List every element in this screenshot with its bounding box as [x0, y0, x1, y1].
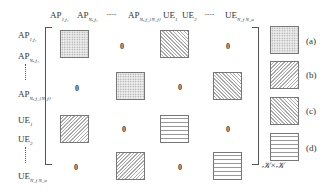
legend-swatch-d	[270, 133, 299, 161]
dimension-label: 𝒦×𝒦	[262, 160, 284, 170]
legend-swatch-a	[270, 26, 299, 54]
col-header-ap-1: AP1,f₁	[50, 10, 68, 25]
block-ue-ue-2	[213, 152, 242, 180]
col-header-ellipsis: ······	[106, 10, 116, 19]
col-header-ellipsis-2: ······	[204, 10, 214, 19]
legend-label-c: (c)	[306, 106, 316, 116]
block-ap-ap-2	[116, 72, 145, 100]
row-ellipsis-2	[25, 147, 26, 163]
zero-entry: 0	[120, 42, 124, 51]
col-header-ue-2: UE2	[182, 10, 197, 25]
block-ap-ap-1	[60, 30, 89, 58]
legend-label-d: (d)	[306, 143, 317, 153]
col-header-ap-nf: APNₐ,f_{N_f}	[128, 10, 161, 25]
row-header-ap-na: APNₐ,f₁	[18, 51, 39, 66]
zero-entry: 0	[226, 125, 230, 134]
zero-entry: 0	[226, 42, 230, 51]
row-header-ue-n: UEN_f N_u	[18, 171, 47, 186]
block-ue-ue-1	[160, 115, 189, 143]
row-header-ue-1: UE1	[18, 115, 33, 130]
block-ue-ap-2	[116, 152, 145, 180]
col-header-ue-1: UE1	[163, 10, 178, 25]
row-header-ap-1: AP1,f₁	[18, 30, 36, 45]
legend-swatch-c	[270, 97, 299, 125]
legend-label-a: (a)	[306, 36, 316, 46]
zero-entry: 0	[74, 163, 78, 172]
col-header-ap-na: APNₐ,f₁	[77, 10, 98, 25]
block-ap-ue-1	[160, 30, 189, 58]
zero-entry: 0	[75, 84, 79, 93]
row-ellipsis	[25, 64, 26, 80]
right-bracket	[252, 27, 259, 165]
zero-entry: 0	[178, 83, 182, 92]
legend-swatch-b	[270, 61, 299, 89]
block-ue-ap-1	[60, 115, 89, 143]
col-header-ue-n: UEN_f N_u	[225, 10, 254, 25]
zero-entry: 0	[178, 163, 182, 172]
legend-label-b: (b)	[306, 70, 317, 80]
zero-entry: 0	[122, 125, 126, 134]
block-matrix-diagram: AP1,f₁ APNₐ,f₁ ······ APNₐ,f_{N_f} UE1 U…	[0, 0, 332, 195]
block-ap-ue-2	[213, 72, 242, 100]
left-bracket	[45, 27, 52, 165]
